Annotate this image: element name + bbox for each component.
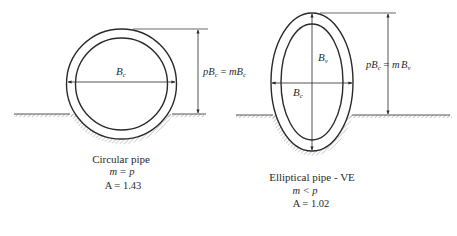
caption-relation-right: m < p xyxy=(292,185,317,196)
caption-title-left: Circular pipe xyxy=(92,153,150,165)
caption-area-left: A = 1.43 xyxy=(105,180,142,191)
caption-area-right: A = 1.02 xyxy=(293,198,330,209)
rise-label-left: pBc = mBc xyxy=(202,66,247,79)
elliptical-pipe-group: Bv Bc pBc = mBv Elliptical pipe - VE m <… xyxy=(236,8,452,209)
circular-pipe-group: Bc pBc = mBc Circular pipe m = p A = 1.4… xyxy=(14,24,247,191)
caption-title-right: Elliptical pipe - VE xyxy=(269,171,355,183)
circular-pipe-inner-wall xyxy=(76,38,168,130)
caption-relation-left: m = p xyxy=(109,166,134,177)
pipe-bedding-diagram: Bc pBc = mBc Circular pipe m = p A = 1.4… xyxy=(0,0,457,236)
